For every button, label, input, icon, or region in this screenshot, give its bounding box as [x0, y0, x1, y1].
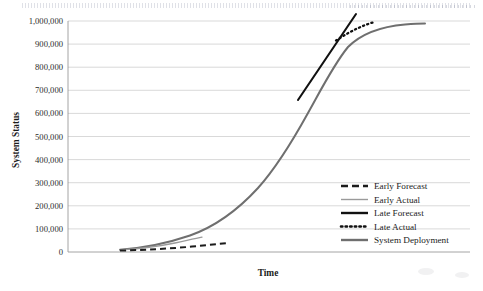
y-tick-label: 600,000 [35, 108, 63, 118]
y-axis-title: System Status [11, 112, 21, 168]
legend-label: System Deployment [374, 235, 449, 245]
x-axis-title: Time [258, 268, 279, 278]
y-tick-label: 500,000 [35, 132, 63, 142]
legend-label: Late Forecast [374, 208, 424, 218]
legend-item-late-forecast[interactable]: Late Forecast [341, 208, 424, 218]
y-tick-label: 900,000 [35, 39, 63, 49]
y-tick-label: 1,000,000 [29, 16, 63, 26]
y-tick-labels: 1,000,000 900,000 800,000 700,000 600,00… [29, 16, 63, 257]
y-tick-label: 100,000 [35, 224, 63, 234]
legend-label: Early Forecast [374, 181, 428, 191]
y-tick-label: 300,000 [35, 178, 63, 188]
legend: Early Forecast Early Actual Late Forecas… [341, 181, 449, 245]
y-tick-label: 200,000 [35, 201, 63, 211]
series-late-actual [336, 22, 373, 40]
legend-item-system-deployment[interactable]: System Deployment [341, 235, 449, 245]
legend-label: Late Actual [374, 222, 417, 232]
line-chart-svg: 1,000,000 900,000 800,000 700,000 600,00… [0, 0, 483, 291]
legend-item-late-actual[interactable]: Late Actual [341, 222, 417, 232]
legend-label: Early Actual [374, 195, 421, 205]
y-tick-label: 700,000 [35, 85, 63, 95]
y-tick-label: 0 [59, 247, 63, 257]
y-tick-label: 400,000 [35, 155, 63, 165]
y-tick-label: 800,000 [35, 62, 63, 72]
chart-figure: 1,000,000 900,000 800,000 700,000 600,00… [0, 0, 483, 291]
legend-item-early-actual[interactable]: Early Actual [341, 195, 421, 205]
series-late-forecast [298, 14, 356, 100]
series-early-forecast [120, 243, 229, 251]
